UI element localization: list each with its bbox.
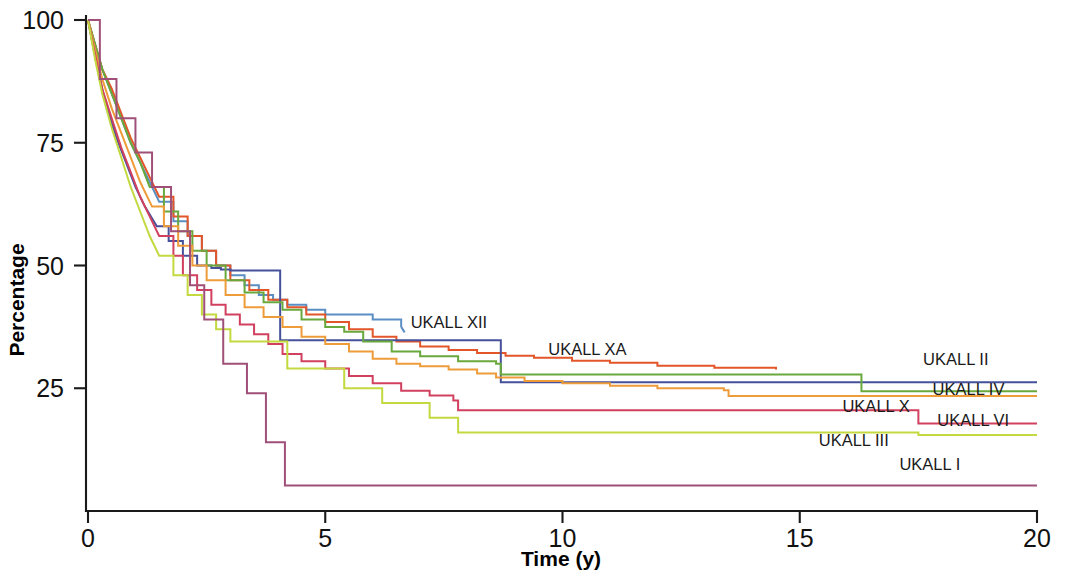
y-tick-label-75: 75 — [36, 129, 64, 157]
chart-svg: 05101520255075100 Percentage Time (y) UK… — [0, 0, 1088, 572]
curves-layer — [88, 20, 1037, 485]
x-tick-label-15: 15 — [786, 524, 814, 552]
y-axis-title: Percentage — [5, 243, 28, 356]
series-curve-ukall-ii — [88, 20, 1037, 382]
km-survival-chart: 05101520255075100 Percentage Time (y) UK… — [0, 0, 1088, 572]
series-labels-layer: UKALL XIIUKALL XAUKALL IIUKALL IVUKALL X… — [411, 313, 1010, 472]
series-label-ukall-vi: UKALL VI — [937, 411, 1009, 429]
axes-group — [86, 16, 1037, 511]
series-label-ukall-ii: UKALL II — [923, 350, 988, 368]
series-label-ukall-iv: UKALL IV — [933, 380, 1005, 398]
y-tick-label-100: 100 — [22, 6, 64, 34]
series-label-ukall-x: UKALL X — [842, 397, 909, 415]
x-tick-label-5: 5 — [318, 524, 332, 552]
series-label-ukall-i: UKALL I — [899, 455, 960, 473]
leader-line-ukall-xii — [401, 327, 404, 332]
x-tick-label-20: 20 — [1023, 524, 1051, 552]
ticks-layer: 05101520255075100 — [22, 6, 1051, 552]
y-tick-label-50: 50 — [36, 252, 64, 280]
series-curve-ukall-iii — [88, 20, 1037, 435]
x-axis-title: Time (y) — [521, 547, 601, 570]
x-tick-label-0: 0 — [81, 524, 95, 552]
series-label-ukall-iii: UKALL III — [819, 431, 889, 449]
series-label-ukall-xa: UKALL XA — [548, 340, 626, 358]
series-curve-ukall-i — [88, 20, 1037, 485]
series-label-ukall-xii: UKALL XII — [411, 313, 487, 331]
y-tick-label-25: 25 — [36, 374, 64, 402]
